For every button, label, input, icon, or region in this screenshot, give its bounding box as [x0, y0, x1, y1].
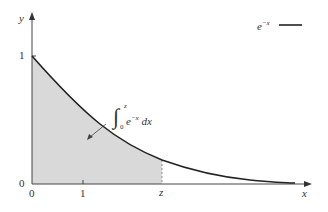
y-tick-label-0: 0	[19, 178, 25, 189]
legend-label: e−x	[257, 20, 270, 32]
integrand: e−x dx	[126, 115, 152, 127]
integral-upper-limit: z	[124, 103, 127, 110]
x-tick-label-1: 1	[80, 188, 86, 199]
x-axis-label: x	[302, 188, 307, 199]
integral-lower-limit: 0	[120, 124, 124, 131]
x-tick-label-z: z	[159, 187, 163, 198]
y-axis-arrow-icon	[29, 12, 35, 20]
y-tick-label-1: 1	[19, 50, 25, 61]
y-axis-label: y	[19, 13, 24, 24]
x-tick-label-0: 0	[29, 188, 35, 199]
chart-canvas: ∫	[0, 0, 328, 212]
